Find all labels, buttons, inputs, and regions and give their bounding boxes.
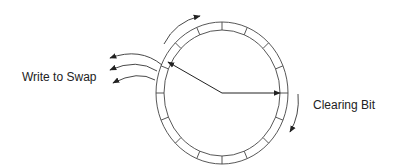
ring-divider xyxy=(244,151,247,158)
swap-arrow-2 xyxy=(110,64,157,71)
write-to-swap-label: Write to Swap xyxy=(22,70,97,84)
swap-hand xyxy=(168,62,222,93)
ring-divider xyxy=(263,43,269,49)
ring-divider xyxy=(175,138,181,144)
ring-divider xyxy=(276,66,283,69)
ring-divider xyxy=(197,151,200,158)
ring-divider xyxy=(263,138,269,144)
ring-divider xyxy=(161,66,168,69)
ring-divider xyxy=(244,27,247,34)
ring-divider xyxy=(161,117,168,120)
clock-diagram: Write to Swap Clearing Bit xyxy=(0,0,397,167)
ring-divider xyxy=(197,27,200,34)
clearing-bit-label: Clearing Bit xyxy=(313,98,376,112)
rotation-arrow-right xyxy=(290,94,298,132)
ring-divider xyxy=(276,117,283,120)
swap-arrow-1 xyxy=(110,54,162,65)
rotation-arrow-top xyxy=(164,16,200,44)
ring-divider xyxy=(175,43,181,49)
swap-arrow-3 xyxy=(113,76,155,83)
